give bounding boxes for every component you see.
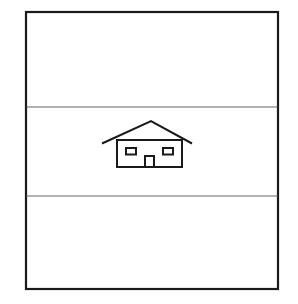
outer-frame xyxy=(26,12,278,289)
diagram-canvas xyxy=(0,0,298,304)
